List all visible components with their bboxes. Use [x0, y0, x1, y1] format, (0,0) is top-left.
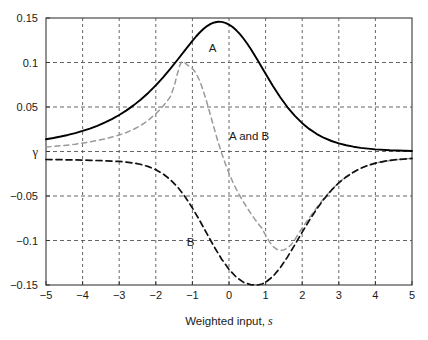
- x-tick-label: −3: [113, 289, 126, 301]
- curve-label-a-and-b: A and B: [229, 130, 270, 142]
- x-tick-label: 5: [409, 289, 415, 301]
- y-tick-label: −0.1: [16, 235, 38, 247]
- y-tick-label: 0.05: [17, 101, 38, 113]
- x-axis-title-variable: s: [268, 314, 273, 328]
- x-axis-title: Weighted input, s: [185, 314, 273, 328]
- y-tick-label: −0.05: [10, 190, 38, 202]
- x-tick-label: 0: [226, 289, 232, 301]
- chart-svg: −5−4−3−2−10123450.150.10.05γ−0.05−0.1−0.…: [0, 0, 428, 340]
- x-tick-label: −5: [40, 289, 53, 301]
- curve-label-a: A: [209, 42, 217, 54]
- y-tick-label: −0.15: [10, 279, 38, 291]
- y-tick-label: 0.15: [17, 12, 38, 24]
- y-tick-label: 0.1: [23, 57, 38, 69]
- x-tick-label: −1: [186, 289, 199, 301]
- x-tick-label: 3: [336, 289, 342, 301]
- curve-label-b: B: [187, 236, 195, 248]
- figure-container: −5−4−3−2−10123450.150.10.05γ−0.05−0.1−0.…: [0, 0, 428, 340]
- x-tick-label: −4: [76, 289, 89, 301]
- x-tick-label: 1: [263, 289, 269, 301]
- x-axis-title-text: Weighted input,: [185, 315, 268, 327]
- y-axis-label-gamma: γ: [31, 145, 38, 159]
- x-tick-label: 2: [299, 289, 305, 301]
- x-tick-label: 4: [372, 289, 378, 301]
- x-tick-label: −2: [150, 289, 163, 301]
- axis-titles: Weighted input, s: [185, 314, 273, 328]
